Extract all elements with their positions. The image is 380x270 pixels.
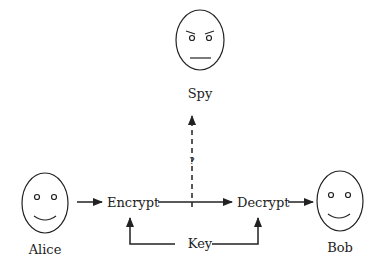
intercept-label: ? bbox=[189, 155, 194, 166]
spy-label: Spy bbox=[188, 86, 213, 101]
spy-face-icon bbox=[176, 10, 224, 70]
key-to-decrypt-arrow bbox=[212, 218, 258, 244]
alice-face-icon bbox=[22, 173, 68, 233]
decrypt-node: Decrypt bbox=[237, 195, 290, 210]
bob-label: Bob bbox=[327, 240, 353, 255]
key-node: Key bbox=[188, 236, 213, 251]
bob-face-icon bbox=[317, 171, 363, 231]
crypto-diagram: Spy ? Alice Encrypt Decrypt Bob Key bbox=[0, 0, 380, 270]
key-to-encrypt-arrow bbox=[130, 218, 175, 244]
encrypt-node: Encrypt bbox=[107, 195, 160, 210]
alice-label: Alice bbox=[28, 242, 62, 257]
